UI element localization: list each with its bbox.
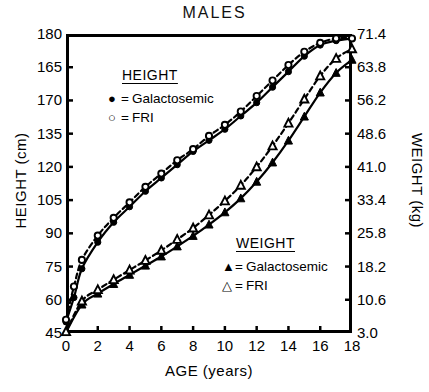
x-axis-title: AGE (years) <box>66 362 352 379</box>
x-axis-tick-label: 8 <box>178 338 208 354</box>
x-axis-tick-label: 16 <box>305 338 335 354</box>
y-axis-left-title: HEIGHT (cm) <box>12 101 29 261</box>
legend-equals: = <box>235 257 243 276</box>
x-axis-tick-label: 14 <box>273 338 303 354</box>
legend-equals: = <box>121 89 129 108</box>
legend-height-title: HEIGHT <box>122 66 214 85</box>
legend-weight-row-fri: △ = FRI <box>222 276 328 295</box>
legend-height-row-fri: ○ = FRI <box>108 108 214 127</box>
y-axis-right-tick-label: 10.6 <box>357 292 386 307</box>
y-axis-left-tick-label: 60 <box>45 292 62 307</box>
x-axis-tick-label: 10 <box>210 338 240 354</box>
y-axis-right-tick-label: 56.2 <box>357 92 386 107</box>
y-axis-left-tick-label: 75 <box>45 259 62 274</box>
y-axis-right-tick-label: 63.8 <box>357 59 386 74</box>
x-axis-tick-label: 4 <box>115 338 145 354</box>
y-axis-left-tick-label: 120 <box>37 159 62 174</box>
y-axis-right-tick-label: 71.4 <box>357 26 386 41</box>
y-axis-left-tick-label: 135 <box>37 126 62 141</box>
y-axis-right-tick-label: 48.6 <box>357 126 386 141</box>
legend-equals: = <box>235 276 243 295</box>
y-axis-left-tick-label: 105 <box>37 192 62 207</box>
y-axis-right-tick-labels: 71.463.856.248.641.033.425.818.210.63.0 <box>357 0 413 392</box>
y-axis-right-title: WEIGHT (kg) <box>409 101 426 261</box>
x-axis-tick-label: 12 <box>242 338 272 354</box>
filled-triangle-icon: ▲ <box>222 257 235 276</box>
x-axis-tick-label: 2 <box>83 338 113 354</box>
y-axis-right-tick-label: 33.4 <box>357 192 386 207</box>
legend-weight-title: WEIGHT <box>236 234 328 253</box>
legend-height: HEIGHT ● = Galactosemic ○ = FRI <box>108 66 214 127</box>
legend-weight: WEIGHT ▲ = Galactosemic △ = FRI <box>222 234 328 295</box>
legend-weight-label-galactosemic: Galactosemic <box>246 257 328 276</box>
y-axis-left-tick-label: 180 <box>37 26 62 41</box>
y-axis-left-tick-label: 90 <box>45 225 62 240</box>
y-axis-right-tick-label: 18.2 <box>357 259 386 274</box>
x-axis-tick-label: 6 <box>146 338 176 354</box>
legend-equals: = <box>121 108 129 127</box>
y-axis-right-tick-label: 41.0 <box>357 159 386 174</box>
y-axis-left-tick-label: 170 <box>37 92 62 107</box>
figure-males-growth-chart: MALES 18016517013512010590756045 71.463.… <box>0 0 429 392</box>
legend-weight-row-galactosemic: ▲ = Galactosemic <box>222 257 328 276</box>
legend-height-label-galactosemic: Galactosemic <box>132 89 214 108</box>
x-axis-tick-label: 18 <box>337 338 367 354</box>
y-axis-right-tick-label: 25.8 <box>357 225 386 240</box>
open-circle-icon: ○ <box>108 108 121 127</box>
legend-height-label-fri: FRI <box>132 108 154 127</box>
open-triangle-icon: △ <box>222 276 235 295</box>
y-axis-left-tick-label: 165 <box>37 59 62 74</box>
x-axis-tick-label: 0 <box>51 338 81 354</box>
filled-circle-icon: ● <box>108 89 121 108</box>
legend-weight-label-fri: FRI <box>246 276 268 295</box>
legend-height-row-galactosemic: ● = Galactosemic <box>108 89 214 108</box>
